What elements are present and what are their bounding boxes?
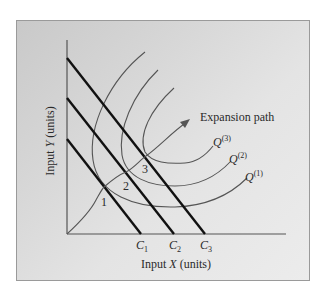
isocost-c3-label: C3 <box>200 238 212 254</box>
tangency-point-2-label: 2 <box>123 179 129 193</box>
isocost-c3 <box>67 58 205 234</box>
isoquant-q3 <box>143 88 213 163</box>
tangency-point-1-label: 1 <box>101 195 107 209</box>
tangency-point-3-label: 3 <box>142 162 148 176</box>
isocost-c1-label: C1 <box>136 238 148 254</box>
isoquant-q2-label: Q(2) <box>229 151 247 166</box>
x-axis-label: Input X (units) <box>141 257 211 271</box>
isoquant-q1 <box>92 52 247 207</box>
isocost-c2 <box>67 98 174 234</box>
isoquant-isocost-diagram: Expansion path Q(3) Q(2) Q(1) 1 2 3 C1 C… <box>0 0 323 293</box>
y-axis-label: Input Y (units) <box>43 106 57 175</box>
isoquant-q2 <box>121 70 231 186</box>
expansion-path-label: Expansion path <box>200 110 274 124</box>
isocost-c2-label: C2 <box>169 238 181 254</box>
isoquant-q3-label: Q(3) <box>213 134 231 149</box>
isoquant-q1-label: Q(1) <box>245 169 263 184</box>
